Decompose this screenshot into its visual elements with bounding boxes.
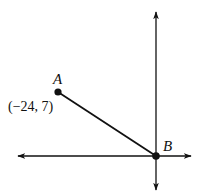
point-a-dot — [54, 88, 61, 95]
point-a-label: A — [52, 71, 63, 87]
coordinate-diagram: A (−24, 7) B — [0, 0, 200, 195]
point-a-coordinates: (−24, 7) — [8, 99, 54, 115]
segment-ab — [58, 92, 156, 156]
point-b-label: B — [163, 138, 172, 154]
point-b-dot — [152, 152, 160, 160]
